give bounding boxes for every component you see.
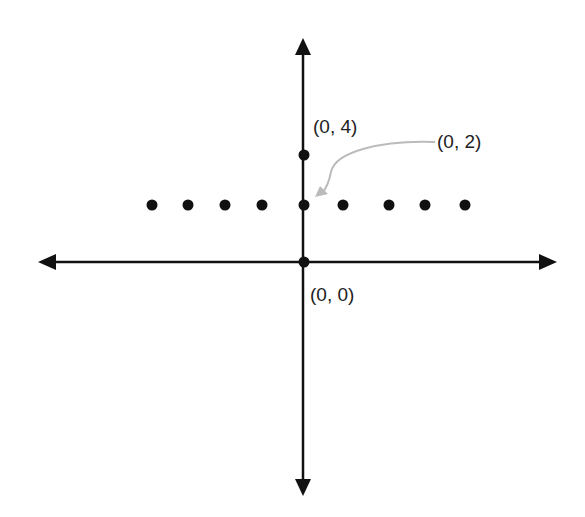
x-axis-right-arrow-icon	[539, 254, 557, 270]
point-0-4	[299, 150, 310, 161]
y-axis-down-arrow-icon	[295, 479, 311, 496]
annotation-arrow-icon	[315, 142, 435, 197]
label-point-0-2: (0, 2)	[437, 131, 481, 153]
point-0-2	[299, 200, 310, 211]
point-origin	[299, 257, 310, 268]
y-axis-up-arrow-icon	[295, 38, 311, 55]
x-axis-left-arrow-icon	[38, 254, 56, 270]
dot-row	[147, 200, 471, 211]
coordinate-plane	[0, 0, 585, 517]
label-origin: (0, 0)	[310, 284, 354, 306]
x-axis	[38, 254, 557, 270]
label-point-0-4: (0, 4)	[313, 116, 357, 138]
